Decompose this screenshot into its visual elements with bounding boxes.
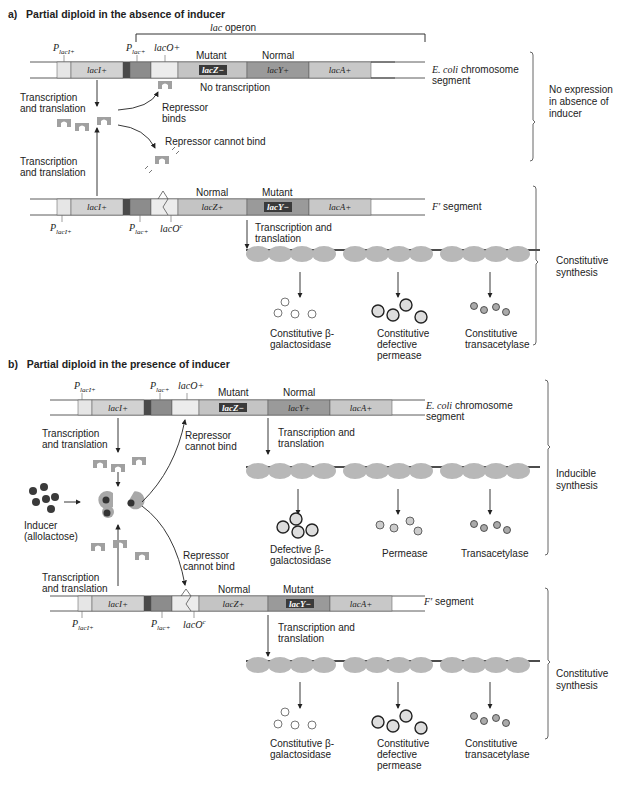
b-product-3: Transacetylase bbox=[461, 548, 528, 559]
fprime-status-normal: Normal bbox=[196, 187, 228, 198]
b-fprime-gene-laca: lacA+ bbox=[330, 596, 392, 611]
b-fprime-operator-label: lacOc bbox=[183, 618, 206, 630]
b-gene-lacz-mutant: lacZ− bbox=[219, 400, 247, 415]
promoter-lac-label: Plac+ bbox=[126, 42, 145, 56]
b-fprime-product-1: Constitutive β-galactosidase bbox=[270, 738, 350, 760]
b-fprime-promoter-lac-label: Plac+ bbox=[151, 618, 170, 632]
b-fprime-gene-laci: lacI+ bbox=[92, 596, 144, 611]
transcription-label-a-bottom: Transcription and translation bbox=[20, 156, 92, 178]
fprime-operator-label: lacOc bbox=[160, 222, 183, 234]
repressor-binds-label: Repressor binds bbox=[162, 102, 212, 124]
b-repressor-cannot-bind-bottom: Repressor cannot bind bbox=[183, 550, 243, 572]
b-fprime-status-normal: Normal bbox=[218, 584, 250, 595]
b-status-mutant: Mutant bbox=[218, 387, 249, 398]
product-a-1: Constitutive β-galactosidase bbox=[270, 328, 350, 350]
b-fprime-status-mutant: Mutant bbox=[283, 584, 314, 595]
b-fprime-product-2: Constitutive defective permease bbox=[377, 738, 437, 771]
operator-label: lacO+ bbox=[154, 42, 180, 53]
b-chromosome-transcription-label: Transcription and translation bbox=[278, 427, 358, 449]
fprime-status-mutant: Mutant bbox=[262, 187, 293, 198]
fprime-gene-lacz: lacZ+ bbox=[178, 199, 247, 215]
gene-laca: lacA+ bbox=[309, 62, 371, 78]
ribosomes-a bbox=[246, 246, 530, 262]
b-status-normal: Normal bbox=[283, 387, 315, 398]
product-a-3: Constitutive transacetylase bbox=[465, 328, 535, 350]
side-label-constitutive-b: Constitutive synthesis bbox=[556, 668, 616, 692]
b-transcription-label-top: Transcription and translation bbox=[42, 428, 114, 450]
ribosomes-b-top bbox=[246, 463, 530, 479]
b-fprime-promoter-laci-label: PlacI+ bbox=[72, 618, 94, 632]
b-promoter-lac-label: Plac+ bbox=[150, 380, 169, 394]
b-fprime-gene-lacz: lacZ+ bbox=[199, 596, 268, 611]
no-transcription-label: No transcription bbox=[200, 82, 270, 93]
b-gene-lacy: lacY+ bbox=[268, 400, 330, 415]
b-transcription-label-bottom: Transcription and translation bbox=[42, 572, 114, 594]
fprime-gene-laca: lacA+ bbox=[309, 199, 371, 215]
side-label-no-expression: No expression in absence of inducer bbox=[549, 84, 621, 120]
segment-label-ecoli: E. coli chromosome segment bbox=[432, 64, 542, 86]
side-label-inducible: Inducible synthesis bbox=[556, 468, 616, 492]
b-segment-label-ecoli: E. coli chromosome segment bbox=[426, 400, 536, 422]
b-fprime-gene-lacy-mutant: lacY− bbox=[286, 596, 314, 611]
fprime-gene-laci: lacI+ bbox=[71, 199, 123, 215]
fprime-promoter-lac-label: Plac+ bbox=[129, 222, 148, 236]
b-fprime-transcription-label: Transcription and translation bbox=[278, 622, 358, 644]
gene-lacy: lacY+ bbox=[247, 62, 309, 78]
b-operator-label: lacO+ bbox=[178, 380, 204, 391]
fprime-transcription-label-a: Transcription and translation bbox=[255, 222, 335, 244]
status-mutant: Mutant bbox=[196, 50, 227, 61]
b-fprime-product-3: Constitutive transacetylase bbox=[465, 738, 535, 760]
promoter-laci-label: PlacI+ bbox=[53, 42, 75, 56]
fprime-gene-lacy-mutant: lacY− bbox=[264, 199, 292, 215]
status-normal: Normal bbox=[262, 50, 294, 61]
diagram-artwork bbox=[0, 0, 644, 792]
b-promoter-laci-label: PlacI+ bbox=[74, 380, 96, 394]
segment-label-fprime: F′ segment bbox=[432, 201, 481, 212]
product-a-2: Constitutive defective permease bbox=[377, 328, 437, 361]
b-product-2: Permease bbox=[382, 548, 428, 559]
repressor-cannot-bind-label: Repressor cannot bind bbox=[165, 136, 266, 147]
inducer-label: Inducer (allolactose) bbox=[24, 520, 84, 542]
inducer-molecules bbox=[29, 483, 59, 513]
fprime-promoter-laci-label: PlacI+ bbox=[50, 222, 72, 236]
side-label-constitutive-a: Constitutive synthesis bbox=[556, 255, 616, 279]
ribosomes-b-bottom bbox=[246, 657, 530, 673]
b-product-1: Defective β-galactosidase bbox=[270, 544, 350, 566]
b-segment-label-fprime: F′ segment bbox=[424, 596, 473, 607]
b-repressor-cannot-bind-top: Repressor cannot bind bbox=[185, 430, 245, 452]
lac-operon-label: lac operon bbox=[210, 22, 256, 33]
b-gene-laca: lacA+ bbox=[330, 400, 392, 415]
b-gene-laci: lacI+ bbox=[92, 400, 144, 415]
transcription-label-a-top: Transcription and translation bbox=[20, 92, 92, 114]
gene-laci: lacI+ bbox=[71, 62, 123, 78]
panel-b-title: b) Partial diploid in the presence of in… bbox=[8, 358, 230, 370]
lac-operon-bracket bbox=[136, 34, 425, 42]
gene-lacz-mutant: lacZ− bbox=[199, 62, 227, 78]
panel-a-title: a) Partial diploid in the absence of ind… bbox=[8, 8, 225, 20]
